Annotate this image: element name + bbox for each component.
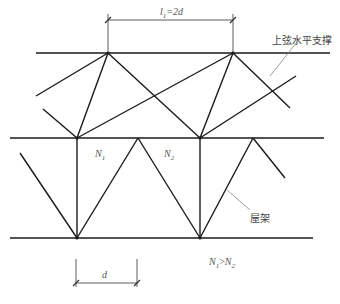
truss-web [20, 138, 285, 238]
upper-bracing [36, 53, 296, 138]
n1-subscript: 1 [102, 154, 106, 162]
n1-symbol: N [95, 148, 102, 159]
relation-n1: N [209, 256, 216, 267]
bracing-leader [270, 42, 297, 76]
truss-label: 屋架 [250, 210, 270, 225]
force-relation-label: N1>N2 [209, 256, 235, 270]
span-value: =2d [166, 6, 183, 17]
n2-label: N2 [164, 148, 174, 162]
n2-symbol: N [164, 148, 171, 159]
truss-leader [227, 190, 250, 210]
upper-chord-bracing-label: 上弦水平支撑 [272, 32, 332, 47]
span-bottom-label: d [102, 269, 107, 280]
relation-n2-sub: 2 [231, 262, 235, 270]
n1-label: N1 [95, 148, 105, 162]
span-top-label: l1=2d [160, 6, 183, 20]
n2-subscript: 2 [171, 154, 175, 162]
